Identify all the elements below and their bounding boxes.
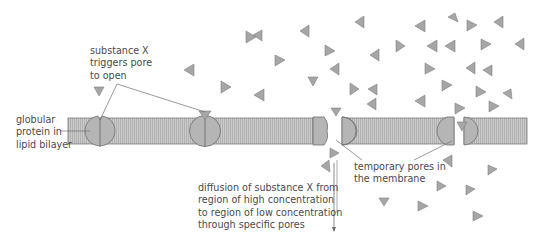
diagram-facilitated-diffusion: substance X triggers pore to open globul… <box>0 0 542 238</box>
open-pore-1 <box>313 117 357 145</box>
label-globular-protein: globular protein in lipid bilayer <box>16 114 72 151</box>
open-pore-2 <box>437 117 478 145</box>
label-diffusion: diffusion of substance X from region of … <box>198 182 342 232</box>
label-substance-x-triggers: substance X triggers pore to open <box>90 45 152 82</box>
globular-protein-bound <box>190 111 221 147</box>
label-temporary-pores: temporary pores in the membrane <box>354 161 446 186</box>
